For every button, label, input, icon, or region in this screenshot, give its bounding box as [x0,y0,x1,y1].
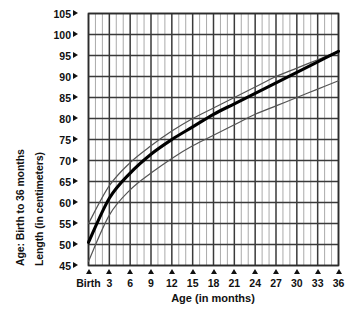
y-tick-arrow-icon [73,94,78,100]
x-tick-arrow-icon [169,269,175,274]
y-tick-arrow-icon [73,73,78,79]
x-tick-arrow-icon [294,269,300,274]
x-tick-label: 12 [166,277,178,289]
x-tick-arrow-icon [315,269,321,274]
x-tick-arrow-icon [148,269,154,274]
x-tick-label: 21 [228,277,240,289]
y-tick-arrow-icon [73,262,78,268]
x-tick-label: 9 [148,277,154,289]
y-tick-arrow-icon [73,178,78,184]
x-tick-label: 18 [208,277,220,289]
x-tick-label: 36 [333,277,345,289]
x-tick-label: 3 [106,277,112,289]
x-tick-label: 30 [291,277,303,289]
x-axis-ticks: Birth369121518212427303336 [0,0,349,312]
x-tick-arrow-icon [336,269,342,274]
y-tick-arrow-icon [73,241,78,247]
x-tick-label: 15 [187,277,199,289]
y-tick-arrow-icon [73,115,78,121]
x-tick-label: 24 [249,277,261,289]
x-tick-label: Birth [76,277,101,289]
x-tick-arrow-icon [86,269,92,274]
x-tick-label: 6 [127,277,133,289]
x-tick-label: 33 [312,277,324,289]
x-tick-arrow-icon [211,269,217,274]
x-axis-title: Age (in months) [171,292,255,304]
y-tick-arrow-icon [73,157,78,163]
x-tick-arrow-icon [252,269,258,274]
x-tick-arrow-icon [231,269,237,274]
y-tick-arrow-icon [73,52,78,58]
y-tick-arrow-icon [73,136,78,142]
y-tick-arrow-icon [73,10,78,16]
x-tick-arrow-icon [106,269,112,274]
x-tick-arrow-icon [190,269,196,274]
y-tick-arrow-icon [73,220,78,226]
y-tick-arrow-icon [73,31,78,37]
growth-chart: Age: Birth to 36 months Length (in centi… [0,0,349,312]
x-tick-arrow-icon [127,269,133,274]
y-tick-arrow-icon [73,199,78,205]
x-tick-label: 27 [270,277,282,289]
x-tick-arrow-icon [273,269,279,274]
